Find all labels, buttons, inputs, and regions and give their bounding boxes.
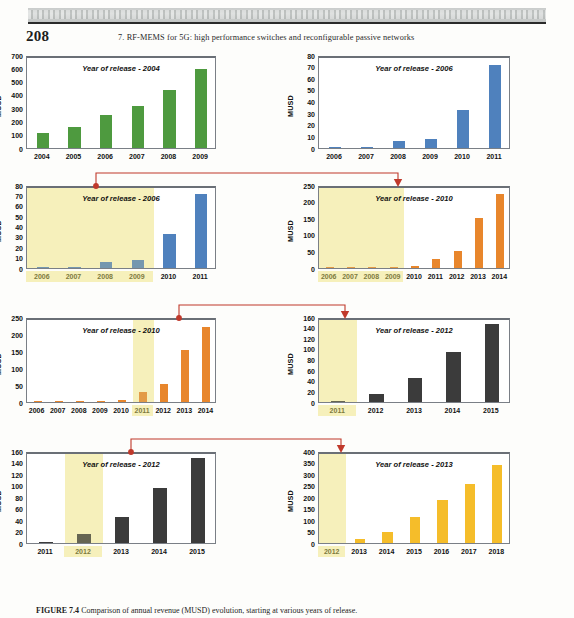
bar-2008 xyxy=(368,267,376,268)
x-tick-label: 2009 xyxy=(89,407,110,414)
x-axis-ticks: 20112012201320142015 xyxy=(26,546,216,558)
bar-2013 xyxy=(355,539,365,543)
chart-title: Year of release - 2010 xyxy=(319,194,509,203)
bar-2016 xyxy=(437,500,447,543)
y-tick-label: 150 xyxy=(0,349,23,356)
chart-title: Year of release - 2013 xyxy=(319,460,509,469)
x-tick-label: 2014 xyxy=(489,273,510,280)
bar-2004 xyxy=(37,133,49,148)
y-tick-label: 40 xyxy=(289,378,315,385)
x-tick-label: 2013 xyxy=(467,273,488,280)
y-tick-label: 80 xyxy=(289,53,315,60)
y-tick-label: 150 xyxy=(289,506,315,513)
bar-2010 xyxy=(163,234,175,268)
x-tick-label: 2009 xyxy=(184,153,216,160)
y-tick-label: 50 xyxy=(289,249,315,256)
plot-area: Year of release - 2010 xyxy=(318,186,510,269)
y-tick-label: 20 xyxy=(289,389,315,396)
y-tick-label: 30 xyxy=(289,111,315,118)
y-tick-label: 120 xyxy=(0,472,23,479)
running-head: 7. RF-MEMS for 5G: high performance swit… xyxy=(118,33,558,42)
y-tick-label: 40 xyxy=(289,99,315,106)
y-tick-label: 80 xyxy=(289,357,315,364)
bar-2006 xyxy=(37,267,49,268)
x-axis-ticks: 2012201320142015201620172018 xyxy=(318,546,510,558)
x-tick-label: 2012 xyxy=(153,407,174,414)
chart-panel-chart-2013: MUSD050100150200250300350400Year of rele… xyxy=(284,452,510,560)
bar-2012 xyxy=(160,384,168,402)
bar-2014 xyxy=(446,352,461,402)
y-tick-label: 10 xyxy=(0,255,23,262)
x-tick-label: 2012 xyxy=(318,548,345,555)
bar-2015 xyxy=(410,517,420,543)
chart-title: Year of release - 2004 xyxy=(27,64,215,73)
bar-2009 xyxy=(390,267,398,268)
bar-2014 xyxy=(496,194,504,268)
bar-2011 xyxy=(432,259,440,268)
y-tick-label: 100 xyxy=(0,366,23,373)
chart-panel-chart-2006-b: MUSD01020304050607080Year of release - 2… xyxy=(0,186,216,285)
x-tick-label: 2011 xyxy=(318,407,356,414)
x-tick-label: 2014 xyxy=(140,548,178,555)
x-tick-label: 2014 xyxy=(433,407,471,414)
chart-panel-chart-2010-a: MUSD050100150200250Year of release - 201… xyxy=(284,186,510,285)
bar-2013 xyxy=(181,350,189,402)
y-tick-label: 10 xyxy=(289,134,315,141)
bar-2015 xyxy=(191,458,205,543)
x-tick-label: 2008 xyxy=(361,273,382,280)
bar-2007 xyxy=(55,401,63,402)
x-tick-label: 2015 xyxy=(472,407,510,414)
bar-2011 xyxy=(39,542,53,543)
bar-2010 xyxy=(457,110,469,148)
x-tick-label: 2005 xyxy=(58,153,90,160)
y-tick-label: 80 xyxy=(0,495,23,502)
y-tick-label: 60 xyxy=(289,76,315,83)
y-tick-label: 140 xyxy=(0,460,23,467)
x-tick-label: 2015 xyxy=(400,548,427,555)
y-tick-label: 300 xyxy=(289,472,315,479)
x-tick-label: 2007 xyxy=(350,153,382,160)
x-tick-label: 2013 xyxy=(395,407,433,414)
bar-2006 xyxy=(100,115,112,148)
x-tick-label: 2010 xyxy=(446,153,478,160)
plot-area: Year of release - 2013 xyxy=(318,452,510,544)
plot-area: Year of release - 2010 xyxy=(26,318,216,403)
y-tick-label: 80 xyxy=(0,183,23,190)
plot-area: Year of release - 2012 xyxy=(26,452,216,544)
y-tick-label: 200 xyxy=(289,199,315,206)
x-tick-label: 2006 xyxy=(89,153,121,160)
bar-2011 xyxy=(195,194,207,268)
x-tick-label: 2011 xyxy=(26,548,64,555)
page-scan-edge xyxy=(28,8,546,24)
y-tick-label: 300 xyxy=(0,106,23,113)
x-tick-label: 2016 xyxy=(428,548,455,555)
y-tick-label: 0 xyxy=(0,541,23,548)
bar-2009 xyxy=(195,69,207,148)
y-tick-label: 160 xyxy=(0,449,23,456)
x-tick-label: 2012 xyxy=(64,548,102,555)
y-tick-label: 0 xyxy=(289,541,315,548)
y-tick-label: 500 xyxy=(0,79,23,86)
x-tick-label: 2007 xyxy=(121,153,153,160)
x-axis-ticks: 200620072008200920102011201220132014 xyxy=(26,405,216,417)
y-tick-label: 400 xyxy=(289,449,315,456)
x-tick-label: 2008 xyxy=(68,407,89,414)
x-tick-label: 2009 xyxy=(382,273,403,280)
chart-panel-chart-2012-b: MUSD020406080100120140160Year of release… xyxy=(0,452,216,560)
y-tick-label: 120 xyxy=(289,336,315,343)
y-tick-label: 20 xyxy=(0,245,23,252)
bar-2006 xyxy=(329,147,341,148)
y-tick-label: 600 xyxy=(0,66,23,73)
x-tick-label: 2012 xyxy=(356,407,394,414)
bar-2006 xyxy=(34,401,42,402)
bar-2008 xyxy=(393,141,405,148)
y-tick-label: 350 xyxy=(289,460,315,467)
y-tick-label: 100 xyxy=(289,346,315,353)
x-tick-label: 2017 xyxy=(455,548,482,555)
x-tick-label: 2014 xyxy=(373,548,400,555)
bar-2010 xyxy=(118,400,126,402)
x-axis-ticks: 200620072008200920102011201220132014 xyxy=(318,271,510,283)
y-tick-label: 400 xyxy=(0,92,23,99)
x-tick-label: 2010 xyxy=(110,407,131,414)
x-tick-label: 2018 xyxy=(483,548,510,555)
